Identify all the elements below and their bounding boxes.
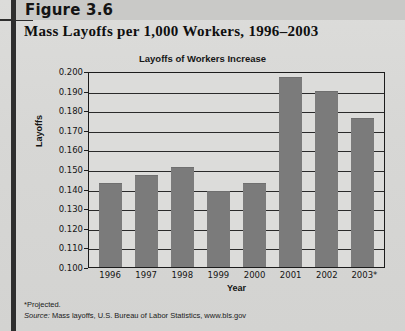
- x-axis-tick-label: 2002: [315, 270, 338, 280]
- x-axis-tick-label: 1998: [171, 270, 194, 280]
- bar: [207, 191, 230, 267]
- x-axis-label: Year: [88, 283, 385, 293]
- x-axis-tick-label: 2001: [279, 270, 302, 280]
- y-axis-tick-label: 0.180: [59, 106, 83, 116]
- y-axis-tick-label: 0.140: [59, 185, 83, 195]
- y-axis-tick-label: 0.110: [59, 243, 83, 253]
- y-axis-tick-label: 0.100: [59, 263, 83, 273]
- y-axis-tick-mark: [84, 92, 88, 93]
- figure-number-label: Figure 3.6: [25, 1, 113, 19]
- footnote: *Projected. Source: Mass layoffs, U.S. B…: [24, 300, 246, 322]
- bar: [243, 183, 266, 267]
- bar: [99, 183, 122, 267]
- y-axis-tick-mark: [84, 150, 88, 151]
- x-axis-tick-label: 1999: [207, 270, 230, 280]
- chart-title: Layoffs of Workers Increase: [0, 53, 405, 64]
- y-axis-tick-label: 0.120: [59, 224, 83, 234]
- x-axis-ticks: 19961997199819992000200120022003*: [88, 270, 385, 280]
- figure-title: Mass Layoffs per 1,000 Workers, 1996–200…: [24, 23, 319, 40]
- y-axis-tick-mark: [84, 209, 88, 210]
- x-axis-tick-label: 2000: [243, 270, 266, 280]
- plot-area-wrapper: 0.2000.1900.1800.1700.1600.1500.1400.130…: [88, 72, 385, 268]
- page-spine-bar: [11, 0, 16, 331]
- bar: [171, 167, 194, 267]
- bar: [279, 77, 302, 267]
- y-axis-tick-label: 0.130: [59, 204, 83, 214]
- y-axis-tick-mark: [84, 170, 88, 171]
- y-axis-tick-label: 0.170: [59, 126, 83, 136]
- bar: [351, 118, 374, 267]
- y-axis-tick-mark: [84, 190, 88, 191]
- projected-note: *Projected.: [24, 300, 246, 311]
- bar-series: [89, 73, 384, 267]
- x-axis-tick-label: 1996: [99, 270, 122, 280]
- bar: [315, 91, 338, 267]
- bar: [135, 175, 158, 267]
- x-axis-tick-label: 2003*: [351, 270, 374, 280]
- y-axis-tick-label: 0.200: [59, 67, 83, 77]
- y-axis-tick-mark: [84, 268, 88, 269]
- y-axis-tick-mark: [84, 131, 88, 132]
- figure-page: Figure 3.6 Mass Layoffs per 1,000 Worker…: [0, 0, 405, 331]
- source-prefix: Source:: [24, 311, 50, 320]
- source-text: Mass layoffs, U.S. Bureau of Labor Stati…: [50, 311, 246, 320]
- y-axis-tick-mark: [84, 248, 88, 249]
- x-axis-tick-label: 1997: [135, 270, 158, 280]
- y-axis-tick-label: 0.160: [59, 145, 83, 155]
- y-axis-tick-mark: [84, 111, 88, 112]
- y-axis-tick-label: 0.150: [59, 165, 83, 175]
- plot-area: [88, 72, 385, 268]
- y-axis-tick-mark: [84, 229, 88, 230]
- y-axis-tick-label: 0.190: [59, 87, 83, 97]
- y-axis-tick-mark: [84, 72, 88, 73]
- source-note: Source: Mass layoffs, U.S. Bureau of Lab…: [24, 311, 246, 322]
- y-axis-label: Layoffs: [34, 115, 44, 147]
